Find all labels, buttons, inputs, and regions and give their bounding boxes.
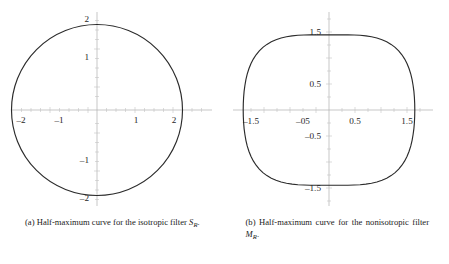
caption-a: (a) Half-maximum curve for the isotropic… [0, 216, 225, 262]
plot-a: –2 –1 1 2 2 1 –1 –2 [0, 0, 225, 214]
plot-b: –1.5 –05 0.5 1.5 1.5 0.5 –0.5 –1.5 [225, 0, 449, 214]
y-tick-label-b-1: 0.5 [309, 79, 321, 89]
caption-b-label: (b) [246, 217, 256, 227]
y-tick-label-a-2: –1 [79, 155, 90, 165]
caption-b: (b) Half-maximum curve for the nonisotro… [225, 216, 449, 262]
caption-a-period: . [197, 217, 199, 227]
y-tick-label-a-0: 2 [84, 14, 89, 24]
y-tick-label-b-0: 1.5 [309, 27, 321, 37]
x-tick-label-b-0: –1.5 [241, 116, 258, 126]
x-tick-label-b-2: 0.5 [349, 116, 361, 126]
axes-b [233, 12, 433, 206]
panel-a: –2 –1 1 2 2 1 –1 –2 (a) Half-maximum cur… [0, 0, 225, 264]
caption-a-text: Half-maximum curve for the isotropic fil… [37, 217, 187, 227]
caption-b-symbol: M [246, 229, 253, 239]
x-tick-label-a-0: –2 [15, 115, 26, 125]
x-tick-label-a-2: 1 [134, 115, 139, 125]
plot-b-svg: –1.5 –05 0.5 1.5 1.5 0.5 –0.5 –1.5 [225, 0, 449, 214]
caption-a-label: (a) [25, 217, 35, 227]
x-tick-label-a-1: –1 [53, 115, 64, 125]
panel-b: –1.5 –05 0.5 1.5 1.5 0.5 –0.5 –1.5 (b) H… [225, 0, 449, 264]
y-tick-label-a-1: 1 [84, 52, 89, 62]
plot-a-svg: –2 –1 1 2 2 1 –1 –2 [0, 0, 225, 214]
x-tick-label-a-3: 2 [172, 115, 177, 125]
x-tick-label-b-1: –05 [295, 116, 310, 126]
caption-b-text: Half-maximum curve for the nonisotropic … [259, 217, 429, 227]
y-tick-label-b-3: –1.5 [303, 183, 320, 193]
figure-two-panel: –2 –1 1 2 2 1 –1 –2 (a) Half-maximum cur… [0, 0, 449, 264]
x-tick-label-b-3: 1.5 [401, 116, 413, 126]
caption-b-period: . [257, 229, 259, 239]
y-tick-label-a-3: –2 [79, 193, 90, 203]
y-tick-label-b-2: –0.5 [303, 131, 320, 141]
